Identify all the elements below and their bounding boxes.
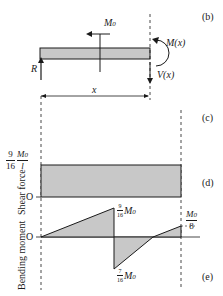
panel-label-b: (b) — [202, 12, 214, 22]
peak-positive-label: 9 16 M0 — [117, 203, 136, 218]
panel-label-c: (c) — [202, 113, 213, 123]
moment-positive-region — [41, 208, 114, 237]
end-moment-label: M0 8 — [186, 210, 197, 231]
distance-label: x — [92, 85, 96, 95]
moment-arrowhead — [86, 31, 92, 37]
shear-origin-label: O — [26, 192, 33, 202]
moment-end-region — [153, 226, 181, 237]
shear-block — [41, 165, 181, 197]
reaction-label: R — [31, 64, 37, 74]
shear-label: V(x) — [157, 70, 174, 80]
panel-label-e: (e) — [202, 272, 213, 282]
internal-moment-arrowhead — [152, 37, 159, 44]
panel-label-d: (d) — [202, 178, 214, 188]
shear-value-fraction: 9 16 M0 l — [6, 150, 28, 171]
beam-segment — [40, 48, 150, 59]
figure-canvas — [0, 0, 223, 296]
x-dim-arrow-left — [41, 94, 46, 98]
moment-negative-region — [114, 237, 153, 269]
x-dim-arrow-right — [144, 94, 149, 98]
internal-moment-label: M(x) — [166, 38, 185, 48]
moment-origin-label: O — [26, 232, 33, 242]
moment-label: M0 — [104, 18, 116, 28]
shear-force-diagram — [36, 165, 181, 197]
peak-negative-label: 7 16 M0 — [117, 268, 136, 283]
